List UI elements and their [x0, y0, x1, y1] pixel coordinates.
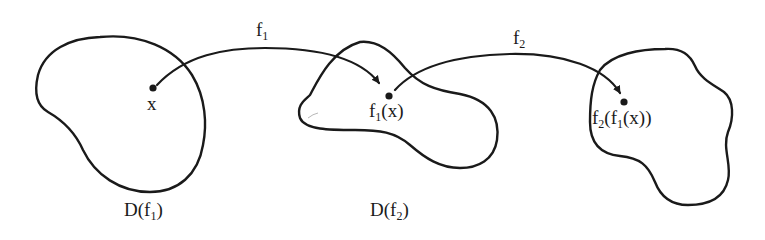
domain-d-f1-label: D(f1)	[124, 200, 163, 219]
point-f2f1x-arg: (x))	[623, 107, 651, 128]
point-x-dot	[149, 84, 156, 91]
arrow-f2-label-sub: 2	[519, 37, 525, 51]
arrow-f2-label: f2	[513, 28, 525, 47]
domain-d-f2-label: D(f2)	[370, 200, 409, 219]
point-f1x-arg: (x)	[381, 100, 403, 121]
domain-d-f2-close: )	[402, 199, 408, 220]
arrow-f1-label: f1	[256, 20, 268, 39]
point-f2f1x-dot	[620, 98, 627, 105]
point-f2f1x-inner-f: (f	[604, 107, 617, 128]
arrow-f1-label-sub: 1	[262, 29, 268, 43]
domain-d-f2-main: D(f	[370, 199, 396, 220]
point-f1x-dot	[385, 92, 392, 99]
point-x-text: x	[147, 93, 157, 114]
domain-d-f1-main: D(f	[124, 199, 150, 220]
point-f2f1x-label: f2(f1(x))	[592, 108, 651, 127]
domain-d-f1-region	[36, 36, 205, 192]
domain-d-f1-close: )	[156, 199, 162, 220]
point-x-label: x	[147, 94, 157, 113]
point-f1x-label: f1(x)	[369, 101, 403, 120]
faint-mark	[308, 113, 318, 118]
arrow-f1	[157, 48, 379, 85]
